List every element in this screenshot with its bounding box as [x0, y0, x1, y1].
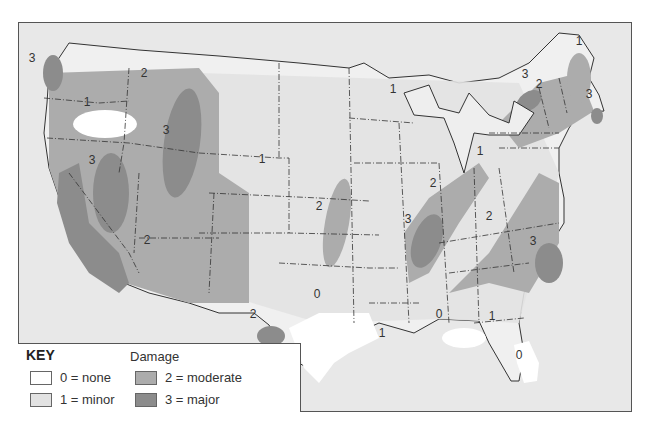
region-major-sc [535, 243, 563, 283]
region-label-massachusetts: 3 [586, 87, 593, 101]
region-label-idaho: 2 [141, 66, 148, 80]
key-item-minor: 1 = minor [30, 392, 115, 407]
region-label-florida: 0 [516, 348, 523, 362]
swatch-major [135, 393, 157, 407]
region-label-new-york: 3 [522, 67, 529, 81]
key-label-major: 3 = major [165, 392, 220, 407]
region-label-minnesota-wisconsin: 1 [390, 82, 397, 96]
key-item-major: 3 = major [135, 392, 220, 407]
region-label-indiana-kentucky: 2 [430, 176, 437, 190]
region-label-nevada: 3 [89, 153, 96, 167]
region-label-wyoming-nebraska: 1 [259, 152, 266, 166]
swatch-minor [30, 393, 52, 407]
key-label-none: 0 = none [60, 370, 111, 385]
region-major-mass [591, 108, 603, 124]
swatch-moderate [135, 371, 157, 385]
key-title: KEY [26, 347, 55, 363]
map-key: KEY Damage 0 = none 1 = minor 2 = modera… [18, 343, 301, 412]
key-item-none: 0 = none [30, 370, 111, 385]
region-none-texas [289, 313, 379, 383]
region-label-georgia-south: 1 [489, 309, 496, 323]
region-label-wa-coast: 3 [29, 51, 36, 65]
key-label-moderate: 2 = moderate [165, 370, 242, 385]
region-label-louisiana: 1 [379, 326, 386, 340]
region-none-gulf [442, 328, 486, 348]
region-major-wa [43, 55, 63, 91]
key-item-moderate: 2 = moderate [135, 370, 242, 385]
region-label-kansas-oklahoma: 2 [316, 199, 323, 213]
region-label-new-england: 2 [536, 77, 543, 91]
region-label-ohio: 1 [477, 144, 484, 158]
region-label-tennessee-west: 3 [405, 212, 412, 226]
region-label-montana-west: 3 [163, 123, 170, 137]
key-subtitle: Damage [130, 349, 179, 364]
region-label-south-carolina: 3 [530, 234, 537, 248]
key-label-minor: 1 = minor [60, 392, 115, 407]
region-label-arizona: 2 [144, 233, 151, 247]
region-major-nevada [93, 153, 129, 233]
region-label-alabama-coast: 0 [436, 307, 443, 321]
region-label-carolinas: 2 [486, 209, 493, 223]
region-label-oregon-east: 1 [84, 95, 91, 109]
region-label-texas-west: 2 [250, 307, 257, 321]
region-none-oregon [73, 110, 137, 138]
region-label-texas: 0 [314, 287, 321, 301]
swatch-none [30, 371, 52, 385]
region-label-maine: 1 [576, 34, 583, 48]
